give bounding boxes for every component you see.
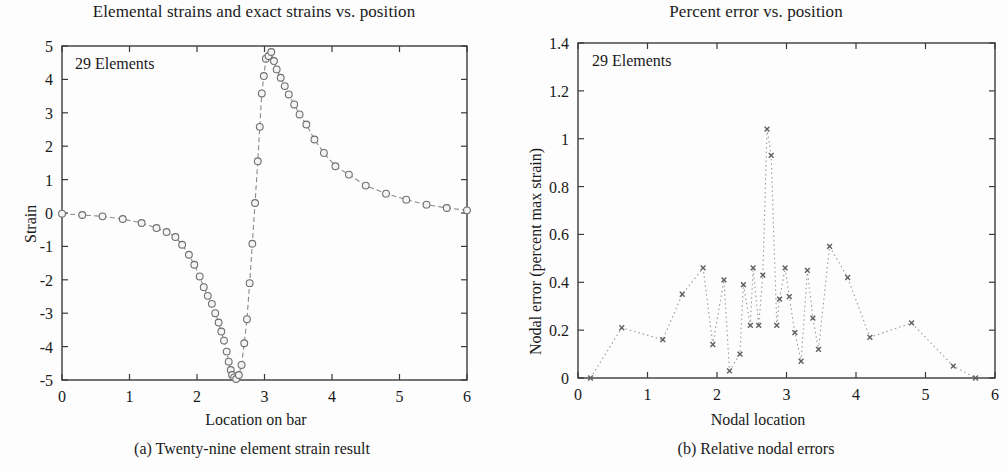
figure-panel-a: Elemental strains and exact strains vs. …	[0, 0, 504, 472]
data-point-marker	[163, 229, 170, 236]
data-point-marker	[799, 359, 804, 364]
data-point-marker	[701, 266, 706, 271]
data-point-marker	[208, 300, 215, 307]
data-point-marker	[200, 284, 207, 291]
y-tick-label: 0.2	[549, 322, 569, 339]
y-tick-label: 1	[45, 172, 53, 189]
data-point-marker	[273, 66, 280, 73]
data-point-marker	[403, 196, 410, 203]
data-point-marker	[383, 190, 390, 197]
data-point-marker	[332, 163, 339, 170]
panel-a-caption: (a) Twenty-nine element strain result	[0, 440, 504, 458]
data-point-marker	[221, 337, 228, 344]
data-point-marker	[769, 153, 774, 158]
figure-page: Elemental strains and exact strains vs. …	[0, 0, 1008, 472]
data-point-marker	[285, 91, 292, 98]
x-tick-label: 6	[991, 386, 999, 403]
x-tick-label: 2	[193, 388, 201, 405]
panel-b-y-axis-label: Nodal error (percent max strain)	[527, 148, 545, 355]
panel-b-plot: 012345600.20.40.60.811.21.4	[504, 0, 1008, 472]
x-tick-label: 3	[783, 386, 791, 403]
data-point-marker	[268, 49, 275, 56]
y-tick-label: 4	[45, 71, 53, 88]
y-tick-label: 0	[45, 205, 53, 222]
data-point-marker	[218, 328, 225, 335]
y-tick-label: 1.2	[549, 83, 569, 100]
data-point-marker	[738, 352, 743, 357]
data-point-marker	[296, 111, 303, 118]
y-tick-label: 0	[561, 370, 569, 387]
data-point-marker	[138, 220, 145, 227]
data-point-marker	[680, 292, 685, 297]
data-point-marker	[951, 364, 956, 369]
data-point-marker	[215, 319, 222, 326]
panel-a-plot: 0123456-5-4-3-2-1012345	[0, 0, 504, 472]
y-tick-label: 5	[45, 38, 53, 55]
data-point-marker	[223, 348, 230, 355]
x-tick-label: 1	[126, 388, 134, 405]
panel-a-x-axis-label: Location on bar	[4, 411, 508, 429]
data-point-marker	[212, 310, 219, 317]
x-tick-label: 1	[644, 386, 652, 403]
data-point-marker	[153, 225, 160, 232]
data-point-marker	[727, 368, 732, 373]
x-tick-label: 5	[396, 388, 404, 405]
panel-b-x-axis-label: Nodal location	[506, 411, 1008, 429]
y-tick-label: 1.4	[549, 35, 569, 52]
data-point-marker	[868, 335, 873, 340]
data-point-marker	[311, 136, 318, 143]
x-tick-label: 4	[328, 388, 336, 405]
y-tick-label: -1	[40, 238, 53, 255]
x-tick-label: 0	[58, 388, 66, 405]
data-point-marker	[260, 73, 267, 80]
data-point-marker	[774, 323, 779, 328]
data-point-marker	[909, 321, 914, 326]
data-point-marker	[191, 261, 198, 268]
data-point-marker	[246, 280, 253, 287]
data-point-marker	[172, 234, 179, 241]
data-point-marker	[464, 207, 471, 214]
data-point-marker	[710, 342, 715, 347]
axes-frame	[578, 43, 995, 378]
data-point-marker	[256, 123, 263, 130]
data-point-marker	[443, 205, 450, 212]
data-point-marker	[99, 213, 106, 220]
data-point-marker	[303, 121, 310, 128]
data-point-marker	[59, 210, 66, 217]
data-point-marker	[748, 323, 753, 328]
data-point-marker	[787, 294, 792, 299]
data-point-marker	[179, 241, 186, 248]
data-point-marker	[423, 201, 430, 208]
x-tick-label: 2	[713, 386, 721, 403]
y-tick-label: 3	[45, 105, 53, 122]
y-tick-label: -5	[40, 372, 53, 389]
figure-panel-b: Percent error vs. position 012345600.20.…	[504, 0, 1008, 472]
data-point-marker	[79, 212, 86, 219]
data-point-marker	[281, 83, 288, 90]
panel-b-annotation: 29 Elements	[592, 52, 672, 70]
y-tick-label: -2	[40, 272, 53, 289]
data-point-marker	[235, 372, 242, 379]
series-line	[591, 129, 976, 378]
y-tick-label: 0.8	[549, 179, 569, 196]
data-point-marker	[619, 325, 624, 330]
data-point-marker	[196, 273, 203, 280]
data-point-marker	[271, 58, 278, 65]
data-point-marker	[225, 358, 232, 365]
data-point-marker	[277, 74, 284, 81]
data-point-marker	[362, 182, 369, 189]
data-point-marker	[252, 200, 259, 207]
data-point-marker	[244, 316, 251, 323]
data-point-marker	[827, 244, 832, 249]
data-point-marker	[119, 216, 126, 223]
data-point-marker	[291, 101, 298, 108]
y-tick-label: 0.6	[549, 226, 569, 243]
x-tick-label: 4	[852, 386, 860, 403]
x-tick-label: 0	[574, 386, 582, 403]
y-tick-label: 0.4	[549, 274, 569, 291]
data-point-marker	[321, 149, 328, 156]
panel-b-caption: (b) Relative nodal errors	[504, 440, 1008, 458]
data-point-marker	[845, 275, 850, 280]
y-tick-label: -3	[40, 305, 53, 322]
x-tick-label: 5	[922, 386, 930, 403]
